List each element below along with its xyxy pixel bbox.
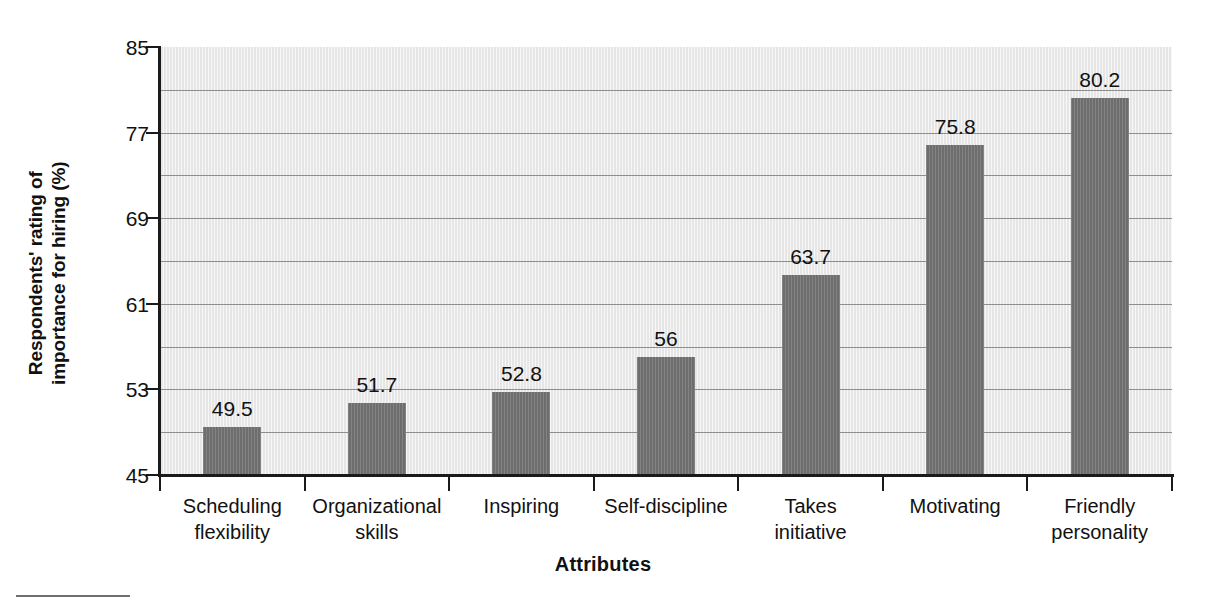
y-axis-tick-label: 53 xyxy=(126,379,149,400)
y-axis-tick-label: 45 xyxy=(126,465,149,486)
y-axis-title-line-2: importance for hiring (%) xyxy=(47,63,70,483)
bar-value-label: 49.5 xyxy=(172,398,292,419)
bar xyxy=(348,403,406,475)
y-axis-line xyxy=(158,46,161,477)
x-axis-title: Attributes xyxy=(0,553,1206,576)
bar xyxy=(492,392,550,475)
x-axis-tick xyxy=(448,477,450,491)
x-axis-category-label-line: skills xyxy=(287,520,467,546)
footnote-separator-rule xyxy=(16,595,130,597)
bar xyxy=(637,357,695,475)
gridline xyxy=(160,304,1172,305)
x-axis-category-label-line: initiative xyxy=(721,520,901,546)
gridline xyxy=(160,90,1172,91)
bar xyxy=(782,275,840,475)
y-axis-title: Respondents' rating of importance for hi… xyxy=(24,63,70,483)
bar-value-label: 51.7 xyxy=(317,374,437,395)
bar-chart-figure: Respondents' rating of importance for hi… xyxy=(0,0,1206,605)
x-axis-category-label: Friendlypersonality xyxy=(1010,494,1190,545)
gridline xyxy=(160,133,1172,134)
gridline xyxy=(160,175,1172,176)
bar-value-label: 75.8 xyxy=(895,116,1015,137)
x-axis-tick xyxy=(593,477,595,491)
x-axis-line xyxy=(158,474,1174,477)
bar-value-label: 63.7 xyxy=(751,246,871,267)
x-axis-category-label-line: personality xyxy=(1010,520,1190,546)
bar xyxy=(203,427,261,475)
y-axis-title-line-1: Respondents' rating of xyxy=(24,63,47,483)
x-axis-tick xyxy=(1026,477,1028,491)
x-axis-category-label-line: Friendly xyxy=(1010,494,1190,520)
x-axis-tick xyxy=(882,477,884,491)
x-axis-tick xyxy=(1171,477,1173,491)
x-axis-tick xyxy=(304,477,306,491)
y-axis-tick-label: 69 xyxy=(126,208,149,229)
bar xyxy=(1071,98,1129,475)
plot-area xyxy=(160,47,1172,475)
y-axis-tick-label: 85 xyxy=(126,37,149,58)
bar-value-label: 80.2 xyxy=(1040,69,1160,90)
y-axis-tick-label: 61 xyxy=(126,294,149,315)
gridline xyxy=(160,261,1172,262)
x-axis-tick xyxy=(159,477,161,491)
bar-value-label: 52.8 xyxy=(461,363,581,384)
x-axis-tick xyxy=(737,477,739,491)
bar-value-label: 56 xyxy=(606,328,726,349)
gridline xyxy=(160,218,1172,219)
y-axis-tick-label: 77 xyxy=(126,123,149,144)
bar xyxy=(926,145,984,475)
